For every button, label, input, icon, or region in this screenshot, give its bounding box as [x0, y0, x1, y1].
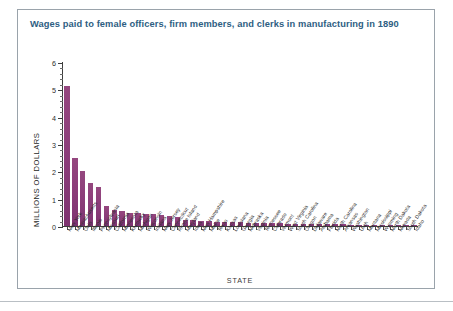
y-tick-label: 5	[52, 86, 56, 95]
x-tick-label-group: New YorkMassachusettsOhioIllinoisPennsyl…	[63, 229, 418, 275]
y-tick-label: 6	[52, 59, 56, 68]
y-tick-label: 0	[52, 223, 56, 232]
y-tick-label: 1	[52, 195, 56, 204]
bar	[64, 86, 69, 226]
bar-series	[63, 62, 418, 226]
y-axis-title: MILLIONS OF DOLLARS	[32, 62, 41, 227]
y-tick-label: 3	[52, 141, 56, 150]
y-tick-label: 4	[52, 113, 56, 122]
plot-area: 0123456	[62, 62, 418, 227]
chart-title: Wages paid to female officers, firm memb…	[30, 18, 424, 30]
y-tick-label: 2	[52, 168, 56, 177]
page-divider	[0, 301, 453, 302]
x-axis-title: STATE	[62, 276, 418, 285]
figure-frame: Wages paid to female officers, firm memb…	[17, 9, 435, 289]
